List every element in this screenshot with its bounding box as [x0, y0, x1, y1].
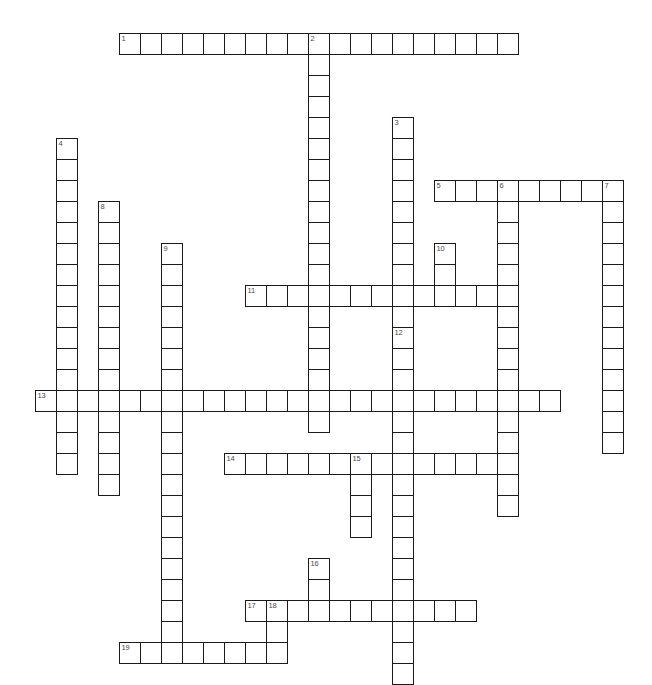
- crossword-cell[interactable]: [161, 642, 183, 664]
- crossword-cell[interactable]: [497, 390, 519, 412]
- crossword-cell[interactable]: [497, 411, 519, 433]
- crossword-cell[interactable]: [602, 369, 624, 391]
- crossword-cell[interactable]: [182, 33, 204, 55]
- crossword-cell[interactable]: [350, 390, 372, 412]
- crossword-cell[interactable]: [392, 579, 414, 601]
- crossword-cell[interactable]: [350, 495, 372, 517]
- crossword-cell[interactable]: 1: [119, 33, 141, 55]
- crossword-cell[interactable]: [308, 54, 330, 76]
- crossword-cell[interactable]: [266, 621, 288, 643]
- crossword-cell[interactable]: [350, 600, 372, 622]
- crossword-cell[interactable]: 15: [350, 453, 372, 475]
- crossword-cell[interactable]: [98, 369, 120, 391]
- crossword-cell[interactable]: [308, 369, 330, 391]
- crossword-cell[interactable]: [161, 516, 183, 538]
- crossword-cell[interactable]: 6: [497, 180, 519, 202]
- crossword-cell[interactable]: [161, 369, 183, 391]
- crossword-cell[interactable]: [308, 264, 330, 286]
- crossword-cell[interactable]: [56, 285, 78, 307]
- crossword-cell[interactable]: [161, 600, 183, 622]
- crossword-cell[interactable]: [539, 390, 561, 412]
- crossword-cell[interactable]: [140, 33, 162, 55]
- crossword-cell[interactable]: 14: [224, 453, 246, 475]
- crossword-cell[interactable]: [56, 348, 78, 370]
- crossword-cell[interactable]: [161, 285, 183, 307]
- crossword-cell[interactable]: [392, 390, 414, 412]
- crossword-cell[interactable]: [497, 33, 519, 55]
- crossword-cell[interactable]: [455, 33, 477, 55]
- crossword-cell[interactable]: 3: [392, 117, 414, 139]
- crossword-cell[interactable]: [161, 33, 183, 55]
- crossword-cell[interactable]: [98, 390, 120, 412]
- crossword-cell[interactable]: [98, 411, 120, 433]
- crossword-cell[interactable]: 7: [602, 180, 624, 202]
- crossword-cell[interactable]: [56, 327, 78, 349]
- crossword-cell[interactable]: [392, 663, 414, 685]
- crossword-cell[interactable]: [161, 495, 183, 517]
- crossword-cell[interactable]: [308, 201, 330, 223]
- crossword-cell[interactable]: [350, 33, 372, 55]
- crossword-cell[interactable]: [350, 474, 372, 496]
- crossword-cell[interactable]: [392, 201, 414, 223]
- crossword-cell[interactable]: [56, 201, 78, 223]
- crossword-cell[interactable]: [308, 306, 330, 328]
- crossword-cell[interactable]: [161, 558, 183, 580]
- crossword-cell[interactable]: [287, 453, 309, 475]
- crossword-cell[interactable]: [308, 348, 330, 370]
- crossword-cell[interactable]: [413, 453, 435, 475]
- crossword-cell[interactable]: [266, 642, 288, 664]
- crossword-cell[interactable]: [308, 579, 330, 601]
- crossword-cell[interactable]: [602, 222, 624, 244]
- crossword-cell[interactable]: [602, 432, 624, 454]
- crossword-cell[interactable]: 8: [98, 201, 120, 223]
- crossword-cell[interactable]: [602, 201, 624, 223]
- crossword-cell[interactable]: [245, 642, 267, 664]
- crossword-cell[interactable]: 10: [434, 243, 456, 265]
- crossword-cell[interactable]: [413, 390, 435, 412]
- crossword-cell[interactable]: 4: [56, 138, 78, 160]
- crossword-cell[interactable]: [371, 453, 393, 475]
- crossword-cell[interactable]: [413, 285, 435, 307]
- crossword-cell[interactable]: [56, 159, 78, 181]
- crossword-cell[interactable]: [161, 306, 183, 328]
- crossword-cell[interactable]: [476, 180, 498, 202]
- crossword-cell[interactable]: [413, 600, 435, 622]
- crossword-cell[interactable]: [308, 222, 330, 244]
- crossword-cell[interactable]: [56, 306, 78, 328]
- crossword-cell[interactable]: [308, 75, 330, 97]
- crossword-cell[interactable]: [56, 180, 78, 202]
- crossword-cell[interactable]: [371, 285, 393, 307]
- crossword-cell[interactable]: [602, 306, 624, 328]
- crossword-cell[interactable]: [602, 411, 624, 433]
- crossword-cell[interactable]: [161, 621, 183, 643]
- crossword-cell[interactable]: [98, 243, 120, 265]
- crossword-cell[interactable]: [455, 285, 477, 307]
- crossword-cell[interactable]: [392, 348, 414, 370]
- crossword-cell[interactable]: 19: [119, 642, 141, 664]
- crossword-cell[interactable]: [392, 621, 414, 643]
- crossword-cell[interactable]: [308, 453, 330, 475]
- crossword-cell[interactable]: [161, 327, 183, 349]
- crossword-cell[interactable]: [161, 453, 183, 475]
- crossword-cell[interactable]: [161, 537, 183, 559]
- crossword-cell[interactable]: [140, 642, 162, 664]
- crossword-cell[interactable]: [455, 390, 477, 412]
- crossword-cell[interactable]: [371, 33, 393, 55]
- crossword-cell[interactable]: [497, 222, 519, 244]
- crossword-cell[interactable]: [392, 33, 414, 55]
- crossword-cell[interactable]: [602, 327, 624, 349]
- crossword-cell[interactable]: [308, 243, 330, 265]
- crossword-cell[interactable]: [308, 180, 330, 202]
- crossword-cell[interactable]: 9: [161, 243, 183, 265]
- crossword-cell[interactable]: [266, 453, 288, 475]
- crossword-cell[interactable]: [413, 33, 435, 55]
- crossword-cell[interactable]: [434, 600, 456, 622]
- crossword-cell[interactable]: [308, 600, 330, 622]
- crossword-cell[interactable]: [56, 264, 78, 286]
- crossword-cell[interactable]: [161, 264, 183, 286]
- crossword-cell[interactable]: [497, 327, 519, 349]
- crossword-cell[interactable]: [497, 453, 519, 475]
- crossword-cell[interactable]: [392, 495, 414, 517]
- crossword-cell[interactable]: 13: [35, 390, 57, 412]
- crossword-cell[interactable]: [350, 285, 372, 307]
